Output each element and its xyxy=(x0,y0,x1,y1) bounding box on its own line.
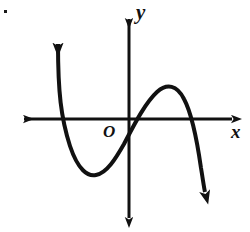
x-axis-label: x xyxy=(231,122,241,141)
graph-canvas xyxy=(0,0,250,232)
y-axis-label: y xyxy=(136,2,145,23)
page-scan-dot xyxy=(4,10,7,13)
graph-figure: y x O xyxy=(0,0,250,232)
origin-label: O xyxy=(103,123,115,140)
